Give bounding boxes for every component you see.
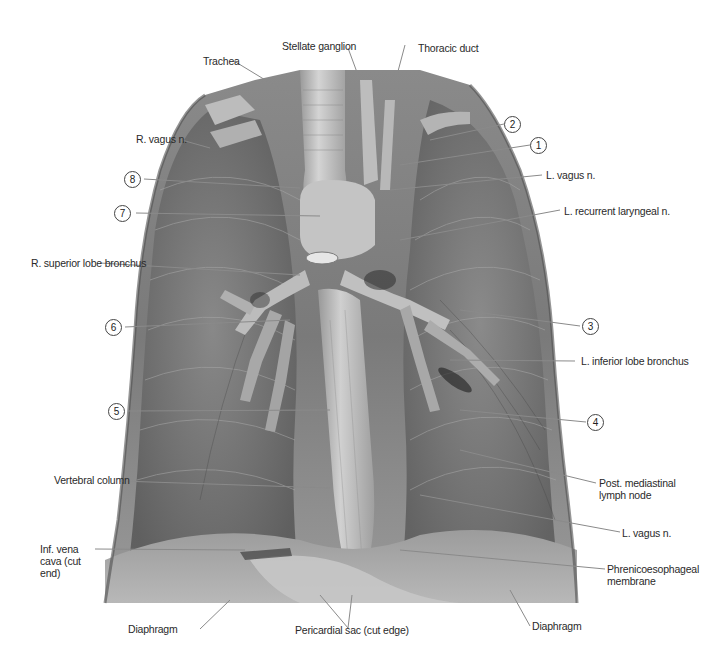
label-l-recurrent-laryngeal-nerve: L. recurrent laryngeal n. [564,205,670,217]
callout-5: 5 [108,403,125,420]
label-diaphragm-right: Diaphragm [532,620,582,632]
label-thoracic-duct: Thoracic duct [418,42,478,54]
callout-3: 3 [582,318,599,335]
label-l-vagus-nerve-upper: L. vagus n. [546,169,595,181]
label-trachea: Trachea [203,55,240,67]
label-vertebral-column: Vertebral column [54,474,130,486]
label-pericardial-sac: Pericardial sac (cut edge) [295,624,409,636]
callout-8: 8 [124,171,141,188]
callout-7: 7 [114,205,131,222]
label-post-mediastinal-lymph-node: Post. mediastinal lymph node [599,477,677,501]
callout-1: 1 [530,137,547,154]
label-phrenicoesophageal-membrane: Phrenicoesophageal membrane [607,563,687,587]
label-l-inferior-lobe-bronchus: L. inferior lobe bronchus [581,355,689,367]
anatomy-figure: Stellate ganglion Thoracic duct Trachea … [0,0,716,671]
label-r-vagus-nerve: R. vagus n. [136,133,187,145]
label-r-superior-lobe-bronchus: R. superior lobe bronchus [31,257,146,269]
callout-4: 4 [587,414,604,431]
label-l-vagus-nerve-lower: L. vagus n. [622,527,671,539]
callout-2: 2 [504,116,521,133]
label-inf-vena-cava: Inf. vena cava (cut end) [40,543,98,579]
label-diaphragm-left: Diaphragm [128,623,178,635]
label-stellate-ganglion: Stellate ganglion [282,40,356,52]
callout-6: 6 [105,319,122,336]
